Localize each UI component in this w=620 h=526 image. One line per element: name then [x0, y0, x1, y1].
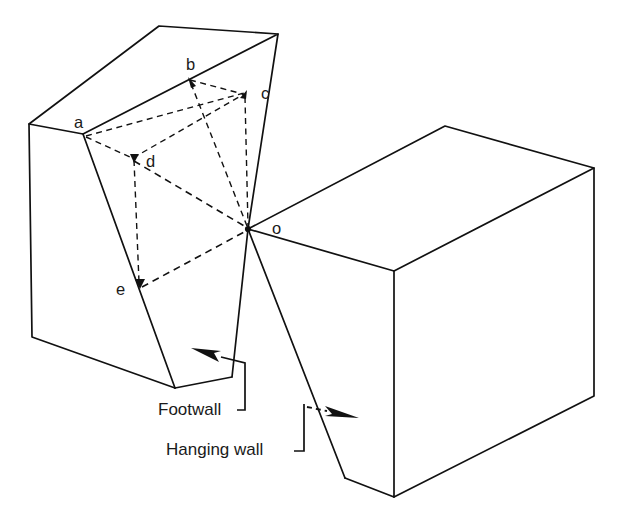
- construction-line-a-d: [86, 137, 130, 157]
- hanging-wall-block: [248, 126, 594, 497]
- construction-line-d-c: [133, 94, 244, 158]
- vertex-marker-o: [245, 226, 251, 232]
- footwall-bottom-edge: [175, 377, 232, 388]
- footwall-fault-face: [83, 134, 175, 388]
- vertex-label-c: c: [261, 84, 269, 102]
- footwall-top-face: [29, 26, 278, 134]
- construction-line-b-c: [190, 80, 243, 94]
- hanging-wall-top-face: [248, 126, 594, 271]
- fault-plane-lower-edge: [232, 229, 248, 377]
- construction-line-d-o: [134, 161, 246, 227]
- footwall-block: [29, 26, 278, 388]
- vertex-label-a: a: [74, 113, 84, 131]
- hanging-wall-front-face: [345, 271, 394, 497]
- construction-arrowheads: [130, 77, 251, 289]
- hanging-wall-arrowhead-icon: [325, 406, 359, 418]
- arrowhead-d-icon: [130, 154, 139, 163]
- construction-line-a-c: [86, 93, 244, 136]
- hanging-wall-leader-line: [294, 404, 304, 451]
- hanging-wall-right-face: [394, 168, 594, 497]
- vertex-label-o: o: [272, 219, 281, 237]
- construction-line-d-e: [134, 160, 139, 282]
- fault-block-diagram-svg: a b c d e o Footwall Hanging wall: [0, 0, 620, 526]
- footwall-arrowhead-icon: [191, 348, 221, 362]
- hanging-wall-label: Hanging wall: [166, 440, 263, 459]
- footwall-label: Footwall: [158, 400, 221, 419]
- vertex-label-d: d: [146, 152, 155, 170]
- construction-lines: [86, 80, 248, 287]
- footwall-upper-right-face: [248, 34, 278, 229]
- vertex-label-e: e: [116, 280, 125, 298]
- fault-block-diagram-canvas: a b c d e o Footwall Hanging wall: [0, 0, 620, 526]
- construction-line-o-b: [190, 81, 247, 226]
- vertex-label-b: b: [186, 55, 195, 73]
- construction-line-c-o: [245, 97, 248, 226]
- vertex-labels: a b c d e o: [74, 55, 281, 298]
- construction-line-e-o: [142, 231, 246, 287]
